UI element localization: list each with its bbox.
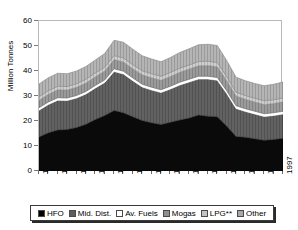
legend-label: Mid. Dist. [78, 209, 111, 218]
stacked-area-plot [39, 21, 283, 171]
legend-item-av-fuels[interactable]: Av. Fuels [116, 209, 158, 218]
x-axis-tick-label: 1997 [285, 156, 294, 174]
legend-label: Av. Fuels [125, 209, 158, 218]
legend-swatch-icon [69, 210, 76, 217]
legend-item-mid-dist[interactable]: Mid. Dist. [69, 209, 111, 218]
y-axis-tick-label: 60 [2, 16, 32, 25]
y-axis-tick-label: 50 [2, 41, 32, 50]
legend-swatch-icon [201, 210, 208, 217]
chart-legend: HFOMid. Dist.Av. FuelsMogasLPG**Other [30, 205, 274, 221]
legend-label: LPG** [210, 209, 232, 218]
y-axis-tick-label: 10 [2, 141, 32, 150]
legend-item-mogas[interactable]: Mogas [163, 209, 196, 218]
y-axis-tick-label: 20 [2, 116, 32, 125]
legend-label: Other [246, 209, 266, 218]
y-axis-tick-label: 30 [2, 91, 32, 100]
legend-label: Mogas [172, 209, 196, 218]
legend-item-hfo[interactable]: HFO [38, 209, 64, 218]
legend-item-other[interactable]: Other [237, 209, 266, 218]
legend-swatch-icon [163, 210, 170, 217]
y-axis-tick-label: 40 [2, 66, 32, 75]
chart-title [0, 0, 298, 6]
legend-label: HFO [47, 209, 64, 218]
legend-item-lpg[interactable]: LPG** [201, 209, 232, 218]
legend-swatch-icon [237, 210, 244, 217]
legend-swatch-icon [116, 210, 123, 217]
chart-root: Million Tonnes 0102030405060 19711973197… [0, 0, 298, 230]
x-axis-tick-labels: 1971197319751977197919811983198519871989… [0, 170, 298, 202]
plot-area [38, 20, 282, 170]
legend-swatch-icon [38, 210, 45, 217]
